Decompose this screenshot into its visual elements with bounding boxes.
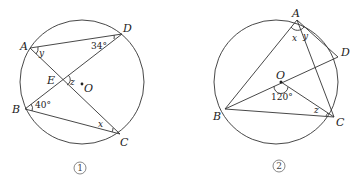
label-C: C <box>336 116 345 129</box>
angle-y: y <box>302 31 309 41</box>
label-D: D <box>340 46 350 59</box>
caption-1: 1 <box>77 163 83 173</box>
chord-BD <box>25 34 122 109</box>
angle-x: x <box>98 119 103 129</box>
angle-120: 120° <box>271 92 293 102</box>
angle-z: z <box>313 105 319 115</box>
figure-2: A D B C O x y 120° z 2 <box>212 7 350 172</box>
angle-arc-40 <box>31 104 33 111</box>
angle-x: x <box>292 33 297 43</box>
center-O-dot <box>81 83 84 86</box>
label-A: A <box>291 7 300 20</box>
geometry-diagram: A D B C E O y 34° 40° x z 1 A D B C O x … <box>0 0 358 188</box>
circle-2 <box>214 20 338 144</box>
angle-arc-y <box>36 47 38 54</box>
chord-BC <box>25 109 120 134</box>
label-D: D <box>122 22 132 35</box>
angle-40: 40° <box>35 100 51 110</box>
label-B: B <box>11 103 20 116</box>
circle-1 <box>20 20 144 144</box>
angle-arc-x <box>112 128 113 132</box>
chord-AC <box>30 48 120 134</box>
caption-2: 2 <box>276 161 282 171</box>
angle-arc-x-y <box>291 27 304 30</box>
label-O: O <box>84 82 93 95</box>
angle-y: y <box>38 48 45 58</box>
angle-z: z <box>69 77 75 87</box>
angle-34: 34° <box>91 41 107 51</box>
label-C: C <box>120 136 129 149</box>
label-B: B <box>212 110 221 123</box>
figure-1: A D B C E O y 34° 40° x z 1 <box>11 20 144 174</box>
label-A: A <box>19 40 28 53</box>
chord-AD <box>30 34 122 48</box>
label-O: O <box>276 69 285 82</box>
label-E: E <box>46 74 55 87</box>
